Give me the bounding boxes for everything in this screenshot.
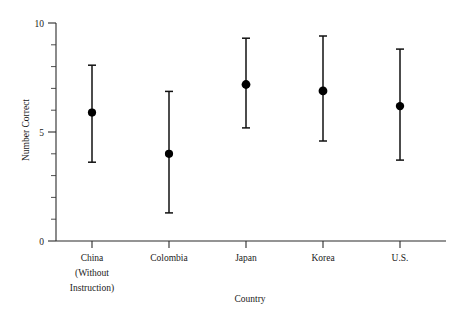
marker-japan	[242, 80, 251, 89]
x-label-japan: Japan	[235, 253, 257, 263]
x-label-china-line2: (Without	[75, 268, 109, 279]
marker-korea	[319, 87, 328, 96]
datapoint-us	[396, 49, 404, 160]
x-label-us: U.S.	[392, 253, 409, 263]
datapoint-colombia	[165, 91, 173, 212]
y-tick-label-5: 5	[39, 128, 44, 138]
plot-canvas: Number Correct Country 10 5 0	[0, 0, 461, 317]
y-tick-label-0: 0	[39, 237, 44, 247]
x-axis-category-labels: China (Without Instruction) Colombia Jap…	[70, 253, 409, 294]
x-label-china-line1: China	[81, 253, 104, 263]
y-axis-major-ticks	[48, 23, 56, 241]
marker-us	[396, 102, 404, 110]
marker-china	[88, 109, 96, 117]
x-label-korea: Korea	[311, 253, 335, 263]
datapoint-korea	[319, 36, 328, 141]
y-axis-title: Number Correct	[21, 99, 31, 161]
datapoint-china	[88, 65, 96, 162]
datapoint-japan	[242, 38, 251, 128]
y-tick-label-10: 10	[35, 19, 45, 29]
y-axis-title-group: Number Correct	[21, 99, 31, 161]
x-axis-title: Country	[234, 294, 265, 304]
error-bar-chart-figure: Number Correct Country 10 5 0	[0, 0, 461, 317]
x-label-colombia: Colombia	[150, 253, 188, 263]
marker-colombia	[165, 150, 173, 158]
x-axis-ticks	[92, 241, 400, 248]
x-label-china-line3: Instruction)	[70, 283, 114, 294]
